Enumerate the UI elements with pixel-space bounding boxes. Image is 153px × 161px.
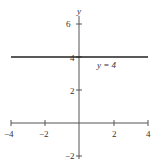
line-label-text: y = 4	[96, 60, 117, 70]
x-tick-label: 2	[112, 129, 117, 139]
x-tick-label: −4	[4, 129, 14, 139]
x-tick-label: 4	[146, 129, 151, 139]
y-tick-label: −2	[65, 151, 75, 161]
y-axis-label: y	[76, 6, 81, 16]
y-tick-label: 2	[70, 86, 75, 96]
y-tick-label: 4	[70, 53, 75, 63]
x-tick-label: −2	[39, 129, 49, 139]
line-label: y = 4	[96, 60, 117, 70]
plot: y 6 4 2 −2 −4 −2 2 4 y = 4	[0, 0, 153, 161]
y-tick-label: 6	[66, 19, 71, 29]
